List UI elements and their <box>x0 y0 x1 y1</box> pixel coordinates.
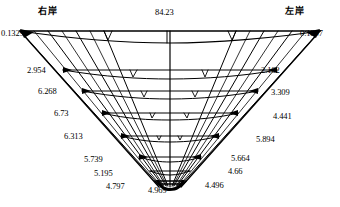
value-label-left-2: 6.268 <box>38 87 57 96</box>
value-label-right-4: 5.894 <box>256 135 275 144</box>
value-label-right-3: 4.441 <box>273 112 292 121</box>
value-label-right-2: 3.309 <box>271 88 290 97</box>
bank-label-left: 左岸 <box>285 7 304 16</box>
value-label-right-7: 4.496 <box>205 181 224 190</box>
value-label-left-3: 6.73 <box>54 109 68 118</box>
center-axis-line <box>167 31 170 187</box>
bank-label-right: 右岸 <box>38 7 57 16</box>
value-label-right-5: 5.664 <box>231 154 250 163</box>
cross-section-figure: 右岸 84.23 左岸 0.1329 0.1887 2.954 2.162 6.… <box>0 0 340 207</box>
value-label-left-1: 2.954 <box>27 66 46 75</box>
value-label-left-7: 4.797 <box>106 182 125 191</box>
top-width-label: 84.23 <box>155 8 174 17</box>
mesh-drawing <box>0 0 340 207</box>
value-label-left-6: 5.195 <box>94 169 113 178</box>
value-label-left-edge: 0.1329 <box>1 29 24 38</box>
value-label-right-6: 4.66 <box>228 167 242 176</box>
value-label-right-1: 2.162 <box>261 66 280 75</box>
value-label-left-4: 6.313 <box>64 132 83 141</box>
value-label-left-5: 5.739 <box>84 155 103 164</box>
value-label-bottom: 4.969 <box>148 186 167 195</box>
value-label-right-edge: 0.1887 <box>300 29 323 38</box>
